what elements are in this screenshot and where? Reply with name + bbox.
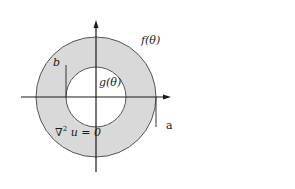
- diagram-canvas: [0, 0, 295, 189]
- y-axis-arrow-icon: [94, 20, 99, 28]
- nabla-symbol: ∇: [55, 126, 63, 139]
- outer-boundary-label: f(θ): [141, 35, 160, 46]
- outer-radius-label: a: [166, 120, 173, 131]
- laplace-equation-label: ∇2 u = 0: [55, 126, 101, 138]
- inner-boundary-label: g(θ): [99, 77, 121, 88]
- equation-body: u = 0: [67, 126, 101, 139]
- x-axis-arrow-icon: [163, 95, 171, 100]
- annulus-diagram: f(θ) g(θ) b a ∇2 u = 0: [0, 0, 295, 189]
- inner-radius-label: b: [53, 57, 60, 68]
